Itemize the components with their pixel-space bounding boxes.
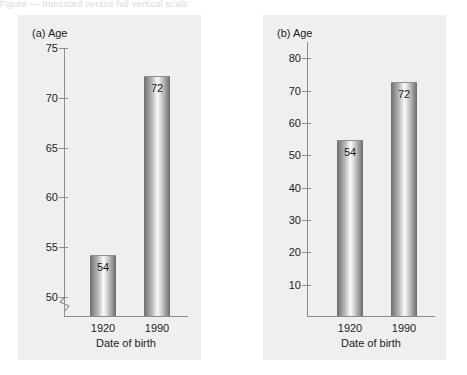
panel-a-ytick-label-70: 70	[46, 92, 58, 104]
panel-a-bar-1920[interactable]: 54	[90, 255, 116, 316]
panel-a-ytick-label-50: 50	[46, 291, 58, 303]
panel-b-ytick-label-30: 30	[289, 214, 301, 226]
panel-b-xtick-label-1920: 1920	[338, 322, 362, 334]
panel-b-x-axis	[307, 316, 435, 317]
panel-b-ytick-label-40: 40	[289, 182, 301, 194]
panel-a-x-axis	[64, 316, 188, 317]
panel-a-ytick-label-75: 75	[46, 42, 58, 54]
panel-a-y-axis	[64, 48, 65, 317]
panel-a-ytick-label-65: 65	[46, 142, 58, 154]
panel-a-ytick-label-60: 60	[46, 191, 58, 203]
panel-a-x-axis-title: Date of birth	[64, 337, 188, 349]
panel-a-bar-1990[interactable]: 72	[144, 76, 170, 316]
panel-a-xtick-label-1990: 1990	[145, 322, 169, 334]
panel-b-xtick-label-1990: 1990	[392, 322, 416, 334]
panel-b-bar-value-1990: 72	[391, 88, 417, 100]
panel-b-ytick-label-80: 80	[289, 52, 301, 64]
panel-b-y-axis	[307, 42, 308, 317]
page-caption-strip: Figure — truncated versus full vertical …	[0, 0, 467, 9]
panel-a-title: (a) Age	[32, 27, 67, 39]
panel-a-plot-area: 75 70 65 60 55 50 54 72	[64, 48, 188, 317]
chart-panel-b: (b) Age 80 70 60 50 40 30	[263, 15, 446, 360]
panel-a-bar-value-1920: 54	[90, 261, 116, 273]
axis-break-icon	[59, 297, 70, 311]
chart-panel-a: (a) Age 75 70 65 60 55 50	[18, 15, 201, 360]
panel-b-ytick-label-60: 60	[289, 117, 301, 129]
panel-b-ytick-label-50: 50	[289, 149, 301, 161]
panel-b-title: (b) Age	[277, 27, 312, 39]
panel-a-bar-value-1990: 72	[144, 82, 170, 94]
panel-b-bar-value-1920: 54	[337, 146, 363, 158]
panel-b-ytick-label-20: 20	[289, 246, 301, 258]
panel-b-ytick-label-70: 70	[289, 85, 301, 97]
panel-b-plot-area: 80 70 60 50 40 30 20 10	[307, 42, 435, 317]
panel-b-ytick-label-10: 10	[289, 279, 301, 291]
panel-a-ytick-label-55: 55	[46, 241, 58, 253]
panel-b-x-axis-title: Date of birth	[307, 337, 435, 349]
panel-b-bar-1920[interactable]: 54	[337, 140, 363, 316]
panel-a-xtick-label-1920: 1920	[91, 322, 115, 334]
panel-b-bar-1990[interactable]: 72	[391, 82, 417, 316]
